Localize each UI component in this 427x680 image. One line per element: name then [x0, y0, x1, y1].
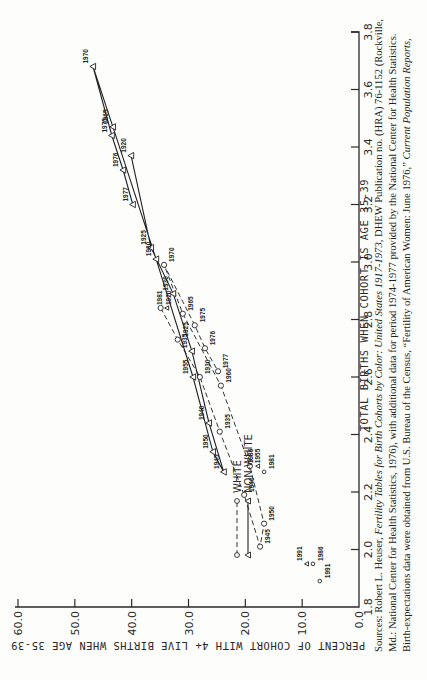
y-tick-label: 20.0	[239, 611, 252, 636]
point-label: 1965	[187, 296, 194, 311]
axis-frame	[15, 32, 359, 607]
white-point-marker	[311, 562, 315, 566]
point-label: 1977	[122, 187, 129, 202]
chart: 1.82.02.22.42.62.83.03.23.43.63.80.010.0…	[0, 0, 427, 680]
white-point-marker	[318, 579, 322, 583]
source-prefix: Sources: Robert L. Heuser,	[373, 535, 384, 652]
point-label: 1950	[268, 506, 275, 521]
point-label: 1981	[156, 290, 163, 305]
rotated-page: 1.82.02.22.42.62.83.03.23.43.63.80.010.0…	[0, 0, 427, 680]
point-label: 1977	[222, 353, 229, 368]
source-note: Sources: Robert L. Heuser, Fertility Tab…	[372, 12, 414, 652]
point-label: 1935	[181, 333, 188, 348]
source-title-2: Current Population Reports,	[401, 38, 412, 159]
point-label: 1975	[101, 118, 108, 133]
y-tick-label: 40.0	[126, 611, 139, 636]
white-point-marker	[262, 470, 266, 474]
y-tick-label: 30.0	[183, 611, 196, 636]
source-title-1: Fertility Tables for Birth Cohorts by Co…	[373, 242, 384, 534]
point-label: 1991	[296, 546, 303, 561]
point-label: 1970	[168, 247, 175, 262]
point-label: 1975	[199, 307, 206, 322]
white-point-marker	[197, 374, 202, 379]
x-axis-title: TOTAL BIRTHS WHEN COHORT IS AGE 35-39	[358, 179, 370, 431]
point-label: 1960	[225, 368, 232, 383]
white-point-marker	[192, 323, 197, 328]
white-point-marker	[218, 383, 223, 388]
series-line-white	[161, 265, 264, 547]
point-label: 1950	[202, 434, 209, 449]
point-label: 1970	[82, 49, 89, 64]
nonwhite-point-marker	[165, 306, 169, 310]
white-point-marker	[217, 429, 222, 434]
point-label: 1920	[165, 290, 172, 305]
point-label: 1955	[182, 359, 189, 374]
point-label: 1920	[120, 138, 127, 153]
point-label: 1930	[162, 276, 169, 291]
point-label: 1976	[209, 330, 216, 345]
point-label: 1991	[324, 563, 331, 578]
markers: 1920192519301935194019451950195519601965…	[82, 49, 331, 583]
legend-label-white: WHITE	[232, 460, 243, 493]
y-tick-label: 10.0	[296, 611, 309, 636]
y-tick-label: 0.0	[353, 611, 366, 629]
point-label: 1976	[112, 152, 119, 167]
nonwhite-point-marker	[90, 63, 96, 69]
point-label: 1945	[213, 454, 220, 469]
white-point-marker	[261, 521, 266, 526]
white-point-marker	[161, 262, 166, 267]
nonwhite-point-marker	[128, 152, 134, 158]
legend-marker-white	[235, 553, 240, 558]
point-label: 1930	[204, 359, 211, 374]
y-axis-title: PERCENT OF COHORT WITH 4+ LIVE BIRTHS WH…	[11, 640, 366, 652]
point-label: 1981	[268, 454, 275, 469]
nonwhite-point-marker	[256, 464, 260, 468]
point-label: 1960	[145, 241, 152, 256]
white-point-marker	[158, 305, 163, 310]
legend-label-nonwhite: NON-WHITE	[243, 434, 254, 493]
nonwhite-point-marker	[305, 562, 309, 566]
white-point-marker	[215, 369, 220, 374]
point-label: 1940	[198, 405, 205, 420]
y-tick-label: 50.0	[69, 611, 82, 636]
y-tick-label: 60.0	[12, 611, 25, 636]
white-point-marker	[202, 346, 207, 351]
white-point-marker	[258, 544, 263, 549]
white-point-marker	[242, 492, 247, 497]
white-point-marker	[175, 337, 180, 342]
point-label: 1935	[224, 414, 231, 429]
axes: 1.82.02.22.42.62.83.03.23.43.63.80.010.0…	[12, 23, 375, 635]
legend-marker-white	[235, 499, 240, 504]
point-label: 1945	[264, 529, 271, 544]
point-label: 1986	[317, 546, 324, 561]
point-label: 1955	[254, 448, 261, 463]
white-point-marker	[180, 311, 185, 316]
